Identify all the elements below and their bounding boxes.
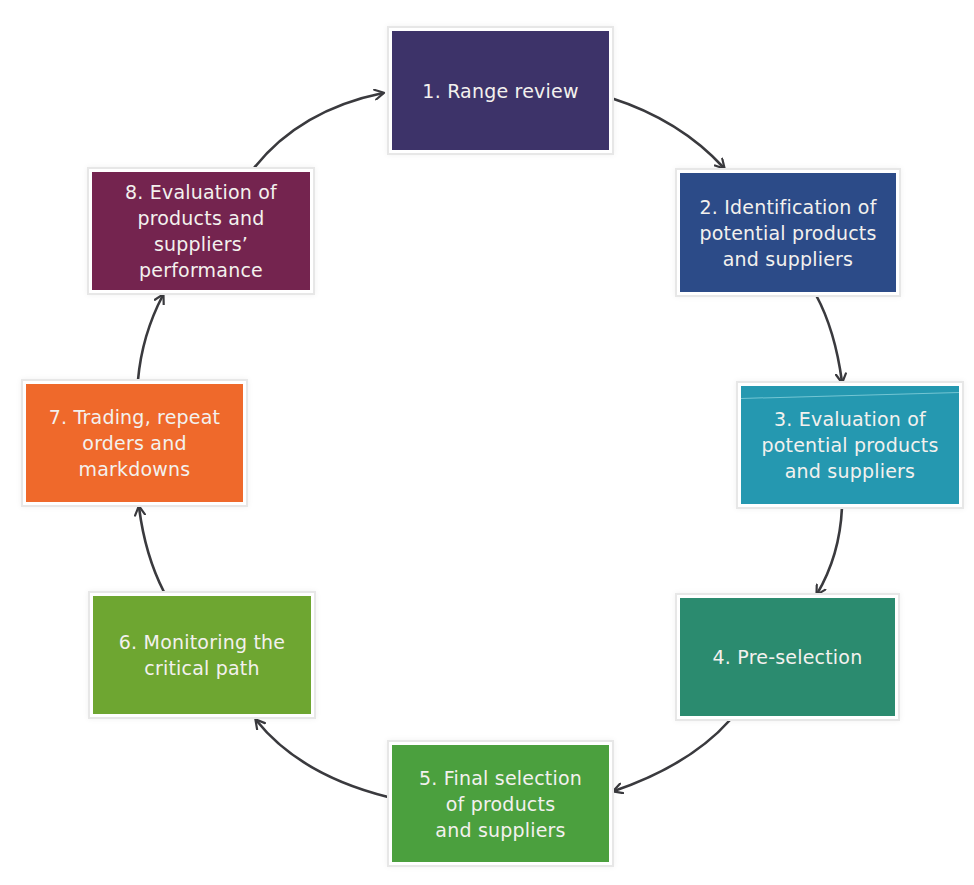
step-label: 7. Trading, repeat orders and markdowns [49, 404, 220, 482]
arrow-3-to-4 [817, 507, 842, 594]
step-box-final-selection: 5. Final selection of products and suppl… [392, 745, 609, 862]
step-label: 3. Evaluation of potential products and … [761, 406, 938, 484]
arrow-5-to-6 [256, 720, 388, 797]
step-label: 4. Pre-selection [713, 644, 863, 670]
step-box-pre-selection: 4. Pre-selection [680, 598, 895, 716]
arrow-1-to-2 [611, 98, 724, 168]
step-box-evaluation-potential: 3. Evaluation of potential products and … [741, 386, 959, 504]
arrow-8-to-1 [254, 93, 383, 168]
step-label: 8. Evaluation of products and suppliers’… [125, 179, 277, 283]
scan-artifact-line [741, 392, 959, 399]
step-box-identification: 2. Identification of potential products … [680, 173, 896, 292]
step-box-monitoring: 6. Monitoring the critical path [93, 596, 311, 714]
arrow-7-to-8 [138, 295, 163, 380]
step-box-range-review: 1. Range review [392, 31, 609, 150]
step-label: 5. Final selection of products and suppl… [419, 765, 582, 843]
step-box-trading: 7. Trading, repeat orders and markdowns [26, 384, 243, 502]
step-label: 2. Identification of potential products … [699, 194, 876, 272]
step-label: 1. Range review [422, 78, 578, 104]
arrow-6-to-7 [139, 507, 164, 592]
step-label: 6. Monitoring the critical path [119, 629, 285, 681]
arrow-4-to-5 [614, 720, 730, 791]
step-box-evaluation-performance: 8. Evaluation of products and suppliers’… [92, 172, 310, 290]
product-selection-cycle-diagram: 1. Range review 2. Identification of pot… [0, 0, 974, 885]
arrow-2-to-3 [816, 295, 842, 382]
